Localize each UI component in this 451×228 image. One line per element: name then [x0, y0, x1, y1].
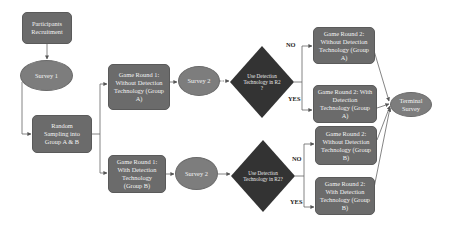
decision-b-label: Use Detection Technology in R2? [243, 160, 283, 192]
edge-label-a-yes: YES [288, 95, 300, 102]
node-game-round2-b-without: Game Round 2: Without Detection Technolo… [315, 126, 377, 165]
node-game-round2-b-with: Game Round 2: With Detection Technology … [315, 177, 375, 215]
node-survey-1: Survey 1 [20, 60, 73, 91]
edge-label-a-no: NO [286, 41, 296, 48]
edge-gr2aww-terminal [377, 104, 389, 108]
node-label: Game Round 2: With Detection Technology … [317, 88, 373, 120]
node-label: Survey 2 [185, 170, 208, 178]
edge-label-b-no: NO [292, 155, 302, 162]
decision-a-label: Use Detection Technology in R2 ? [242, 66, 282, 98]
node-label: Game Round 2: Without Detection Technolo… [319, 130, 373, 162]
node-random-sampling: Random Sampling into Group A & B [32, 115, 92, 153]
node-label: Survey 2 [188, 77, 211, 85]
node-label: Survey 1 [35, 72, 58, 80]
node-participants-recruitment: Participants Recruitment [22, 12, 72, 44]
node-game-round2-a-without: Game Round 2: Without Detection Technolo… [313, 27, 375, 64]
node-label: Participants Recruitment [23, 20, 71, 36]
node-label: Game Round 2: With Detection Technology … [319, 180, 371, 212]
edge-label-b-yes: YES [290, 198, 302, 205]
node-label: Terminal Survey [391, 97, 431, 113]
node-game-round2-a-with: Game Round 2: With Detection Technology … [313, 85, 377, 123]
node-label: Use Detection Technology in R2 ? [242, 73, 282, 92]
edge-gr2bw-terminal [377, 106, 390, 140]
node-label: Game Round 1: With Detection Technology … [112, 158, 162, 190]
node-terminal-survey: Terminal Survey [390, 92, 432, 117]
node-label: Game Round 1: Without Detection Technolo… [112, 71, 166, 103]
node-label: Random Sampling into Group A & B [39, 122, 85, 146]
node-game-round1-group-a: Game Round 1: Without Detection Technolo… [108, 64, 170, 110]
node-label: Game Round 2: Without Detection Technolo… [317, 30, 371, 62]
node-survey-2-b: Survey 2 [175, 157, 218, 190]
edge-survey1-sampling [22, 82, 31, 134]
node-game-round1-group-b: Game Round 1: With Detection Technology … [108, 155, 166, 193]
node-survey-2-a: Survey 2 [178, 66, 220, 96]
node-label: Use Detection Technology in R2? [243, 170, 283, 182]
